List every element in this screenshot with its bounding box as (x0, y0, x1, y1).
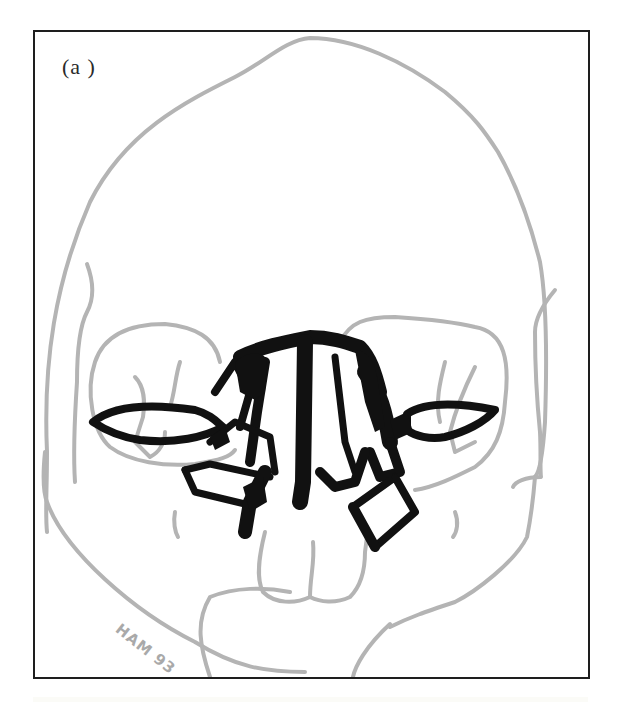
fixation-plates (93, 337, 495, 547)
bottom-strip (33, 697, 588, 702)
figure-frame: (a ) (33, 30, 590, 679)
skull-illustration (35, 32, 588, 677)
